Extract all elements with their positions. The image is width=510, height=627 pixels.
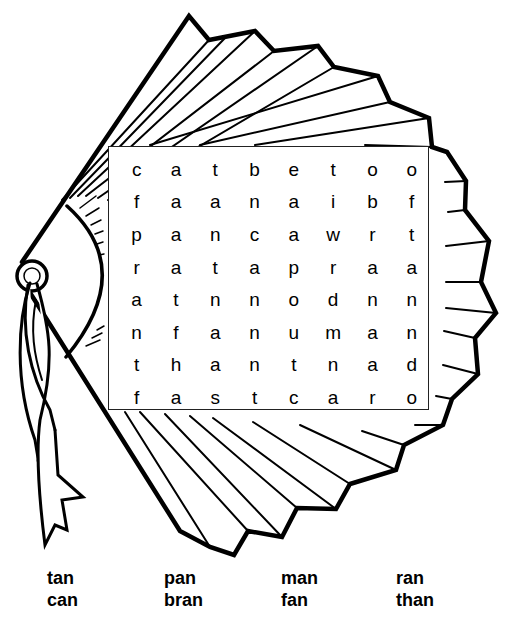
- grid-cell[interactable]: r: [313, 251, 352, 284]
- grid-cell[interactable]: a: [196, 186, 235, 219]
- grid-cell[interactable]: t: [274, 349, 313, 382]
- grid-cell[interactable]: a: [196, 316, 235, 349]
- grid-cell[interactable]: n: [235, 316, 274, 349]
- grid-cell[interactable]: a: [313, 381, 352, 414]
- grid-cell[interactable]: d: [392, 349, 431, 382]
- ribbon: [20, 283, 83, 545]
- grid-cell[interactable]: a: [353, 349, 392, 382]
- word-item: can: [47, 589, 164, 611]
- grid-cell[interactable]: t: [392, 218, 431, 251]
- grid-cell[interactable]: t: [117, 349, 156, 382]
- grid-cell[interactable]: p: [274, 251, 313, 284]
- grid-cell[interactable]: f: [156, 316, 195, 349]
- grid-cell[interactable]: r: [353, 381, 392, 414]
- grid-cell[interactable]: t: [196, 251, 235, 284]
- word-item: man: [281, 567, 396, 589]
- grid-cell[interactable]: b: [235, 153, 274, 186]
- grid-cell[interactable]: c: [235, 218, 274, 251]
- grid-cell[interactable]: w: [313, 218, 352, 251]
- grid-cell[interactable]: t: [196, 153, 235, 186]
- grid-cell[interactable]: m: [313, 316, 352, 349]
- grid-cell[interactable]: a: [156, 251, 195, 284]
- grid-cell[interactable]: d: [313, 283, 352, 316]
- grid-cell[interactable]: a: [156, 186, 195, 219]
- grid-cell[interactable]: o: [353, 153, 392, 186]
- grid-cell[interactable]: i: [313, 186, 352, 219]
- grid-cell[interactable]: n: [196, 283, 235, 316]
- word-item: tan: [47, 567, 164, 589]
- grid-cell[interactable]: n: [196, 218, 235, 251]
- grid-cell[interactable]: n: [235, 283, 274, 316]
- grid-cell[interactable]: r: [117, 251, 156, 284]
- grid-cell[interactable]: n: [392, 316, 431, 349]
- word-item: pan: [164, 567, 281, 589]
- grid-cell[interactable]: u: [274, 316, 313, 349]
- grid-cell[interactable]: n: [313, 349, 352, 382]
- grid-cell[interactable]: h: [156, 349, 195, 382]
- grid-cell[interactable]: a: [392, 251, 431, 284]
- grid-cell[interactable]: a: [353, 251, 392, 284]
- grid-cell[interactable]: a: [156, 153, 195, 186]
- grid-cell[interactable]: r: [353, 218, 392, 251]
- grid-cell[interactable]: t: [235, 381, 274, 414]
- grid-cell[interactable]: a: [274, 218, 313, 251]
- letter-grid: c a t b e t o o f a a n a i b f p a n c …: [117, 153, 428, 409]
- grid-cell[interactable]: f: [117, 381, 156, 414]
- fan-guard-arc: [66, 206, 102, 357]
- grid-cell[interactable]: f: [117, 186, 156, 219]
- grid-cell[interactable]: t: [156, 283, 195, 316]
- grid-cell[interactable]: n: [117, 316, 156, 349]
- grid-cell[interactable]: f: [392, 186, 431, 219]
- grid-cell[interactable]: a: [196, 349, 235, 382]
- grid-cell[interactable]: a: [353, 316, 392, 349]
- word-item: ran: [396, 567, 486, 589]
- grid-cell[interactable]: s: [196, 381, 235, 414]
- grid-cell[interactable]: a: [156, 218, 195, 251]
- grid-cell[interactable]: c: [274, 381, 313, 414]
- grid-cell[interactable]: o: [392, 153, 431, 186]
- grid-cell[interactable]: a: [274, 186, 313, 219]
- grid-cell[interactable]: n: [353, 283, 392, 316]
- pivot-ring-outer: [17, 261, 47, 291]
- grid-cell[interactable]: o: [392, 381, 431, 414]
- grid-cell[interactable]: n: [235, 186, 274, 219]
- word-search-grid-box: c a t b e t o o f a a n a i b f p a n c …: [108, 146, 429, 410]
- grid-cell[interactable]: n: [392, 283, 431, 316]
- grid-cell[interactable]: o: [274, 283, 313, 316]
- grid-cell[interactable]: e: [274, 153, 313, 186]
- word-item: bran: [164, 589, 281, 611]
- grid-cell[interactable]: b: [353, 186, 392, 219]
- grid-cell[interactable]: n: [235, 349, 274, 382]
- grid-cell[interactable]: t: [313, 153, 352, 186]
- grid-cell[interactable]: p: [117, 218, 156, 251]
- grid-cell[interactable]: c: [117, 153, 156, 186]
- grid-cell[interactable]: a: [156, 381, 195, 414]
- grid-cell[interactable]: a: [117, 283, 156, 316]
- word-list: tan pan man ran can bran fan than: [47, 567, 487, 611]
- word-item: than: [396, 589, 486, 611]
- grid-cell[interactable]: a: [235, 251, 274, 284]
- word-item: fan: [281, 589, 396, 611]
